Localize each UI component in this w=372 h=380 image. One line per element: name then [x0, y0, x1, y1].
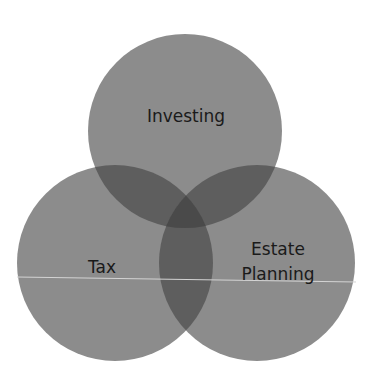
label-estate-line2: Planning: [241, 264, 314, 284]
label-estate-line1: Estate: [251, 239, 305, 259]
venn-diagram: Investing Tax Estate Planning: [0, 0, 372, 380]
label-tax: Tax: [87, 257, 116, 277]
label-investing: Investing: [147, 106, 225, 126]
